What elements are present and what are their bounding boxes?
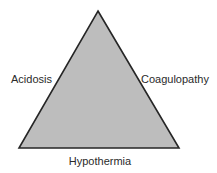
label-acidosis: Acidosis — [11, 73, 52, 85]
triangle-graphic — [0, 0, 217, 173]
label-coagulopathy: Coagulopathy — [141, 73, 209, 85]
label-hypothermia: Hypothermia — [0, 155, 200, 167]
lethal-triad-diagram: Acidosis Coagulopathy Hypothermia — [0, 0, 217, 173]
